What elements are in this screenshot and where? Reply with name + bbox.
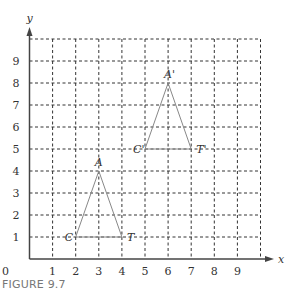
vertex-label: A: [94, 156, 103, 169]
x-tick-label: 1: [49, 265, 56, 278]
vertex-label: T': [196, 143, 206, 156]
y-tick-label: 6: [13, 121, 20, 134]
y-tick-label: 5: [13, 143, 20, 156]
x-tick-label: 8: [211, 265, 218, 278]
axes: [27, 27, 275, 262]
x-tick-label: 2: [72, 265, 79, 278]
y-tick-label: 8: [13, 77, 20, 90]
triangles: [76, 83, 192, 237]
x-axis-label: x: [278, 253, 285, 266]
x-tick-label: 5: [142, 265, 149, 278]
vertex-label: C: [65, 231, 74, 244]
y-tick-label: 3: [13, 187, 20, 200]
y-tick-label: 1: [13, 231, 20, 244]
x-tick-label: 4: [118, 265, 125, 278]
y-tick-label: 9: [13, 55, 20, 68]
x-tick-label: 7: [188, 265, 195, 278]
x-tick-label: 9: [234, 265, 241, 278]
origin-label: 0: [2, 265, 9, 278]
y-tick-label: 7: [13, 99, 20, 112]
x-axis-arrow-icon: [265, 256, 274, 262]
y-axis-label: y: [26, 12, 34, 25]
coordinate-grid-figure: xy0123456789123456789ACTA'C'T': [0, 0, 297, 298]
y-axis-arrow-icon: [27, 27, 33, 36]
x-tick-label: 3: [95, 265, 102, 278]
vertex-label: A': [163, 68, 175, 81]
figure-caption: FIGURE 9.7: [2, 278, 66, 291]
y-tick-label: 4: [13, 165, 20, 178]
labels: xy0123456789123456789ACTA'C'T': [2, 12, 285, 278]
vertex-label: C': [133, 143, 144, 156]
x-tick-label: 6: [165, 265, 172, 278]
y-tick-label: 2: [13, 209, 20, 222]
